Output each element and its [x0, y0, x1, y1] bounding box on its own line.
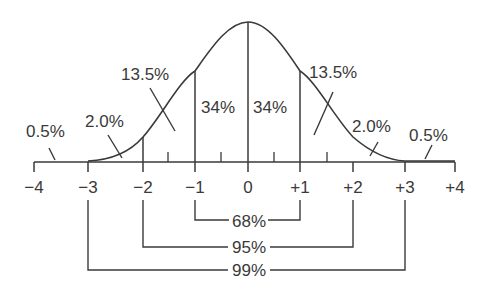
label-right-13-5pct: 13.5%	[309, 63, 357, 82]
interval-brackets	[88, 200, 405, 270]
tick-label: −2	[133, 178, 152, 197]
tick-label: −4	[24, 178, 43, 197]
label-right-tail: 0.5%	[409, 126, 448, 145]
bell-curve-chart: 0.5% 2.0% 13.5% 34% 34% 13.5% 2.0% 0.5% …	[0, 0, 488, 294]
tick-label: +3	[395, 178, 414, 197]
tick-label: +2	[343, 178, 362, 197]
tick-label: +4	[445, 178, 464, 197]
sd-division-lines	[143, 22, 300, 162]
tick-label: −1	[185, 178, 204, 197]
interval-label-68: 68%	[232, 212, 266, 231]
x-tick-labels: −4 −3 −2 −1 0 +1 +2 +3 +4	[24, 178, 464, 197]
label-left-34pct: 34%	[201, 98, 235, 117]
label-right-34pct: 34%	[253, 98, 287, 117]
label-left-2pct: 2.0%	[85, 112, 124, 131]
tick-label: 0	[243, 178, 252, 197]
interval-label-95: 95%	[232, 238, 266, 257]
tick-label: −3	[78, 178, 97, 197]
tick-label: +1	[290, 178, 309, 197]
interval-label-99: 99%	[232, 261, 266, 280]
label-right-2pct: 2.0%	[352, 117, 391, 136]
major-ticks	[34, 162, 455, 172]
label-left-13-5pct: 13.5%	[121, 65, 169, 84]
label-left-tail: 0.5%	[26, 122, 65, 141]
